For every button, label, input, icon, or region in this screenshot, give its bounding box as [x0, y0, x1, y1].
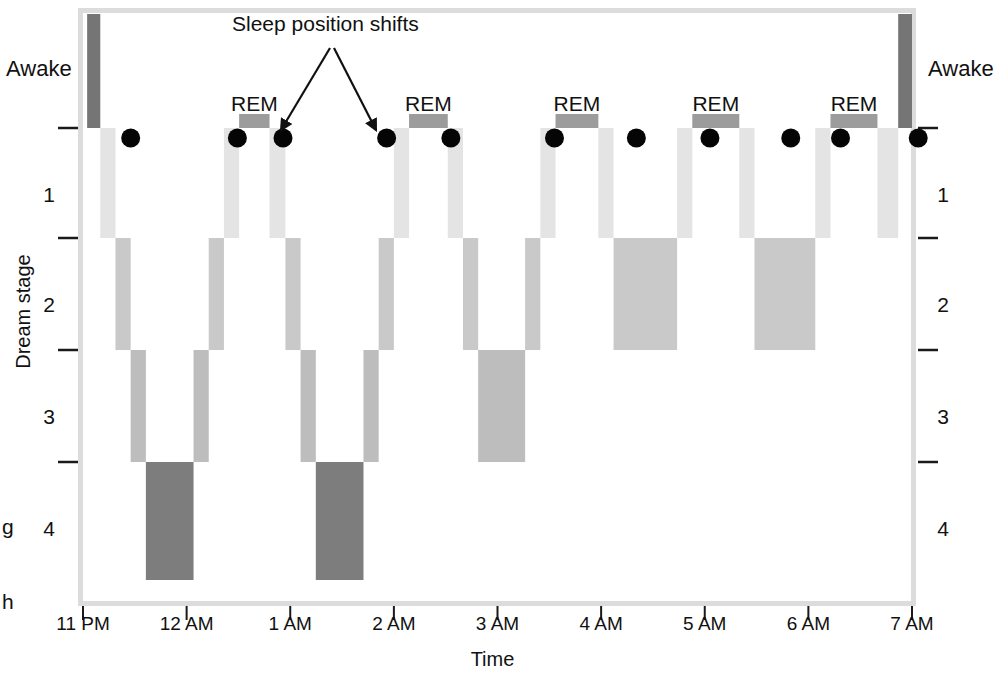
y-axis-right-tick-4: 4: [930, 517, 956, 541]
rem-label: REM: [542, 92, 612, 116]
x-axis-tick-label: 5 AM: [665, 613, 745, 635]
x-axis-tick-label: 4 AM: [561, 613, 641, 635]
y-axis-left-tick-2: 2: [36, 293, 62, 317]
margin-glyph-h: h: [2, 590, 14, 614]
rem-label: REM: [681, 92, 751, 116]
rem-label: REM: [219, 92, 289, 116]
x-axis-tick-label: 12 AM: [147, 613, 227, 635]
y-axis-left-tick-1: 1: [36, 183, 62, 207]
rem-label: REM: [393, 92, 463, 116]
y-axis-left-awake-label: Awake: [6, 56, 72, 82]
y-axis-right-tick-1: 1: [930, 183, 956, 207]
x-axis-tick-label: 7 AM: [872, 613, 952, 635]
x-axis-tick-label: 3 AM: [458, 613, 538, 635]
sleep-position-shifts-annotation: Sleep position shifts: [232, 12, 419, 36]
y-axis-right-awake-label: Awake: [928, 56, 994, 82]
y-axis-right-tick-3: 3: [930, 405, 956, 429]
x-axis-tick-label: 1 AM: [250, 613, 330, 635]
x-axis-tick-label: 11 PM: [43, 613, 123, 635]
x-axis-tick-label: 6 AM: [768, 613, 848, 635]
plot-area-frame: [78, 8, 916, 606]
y-axis-left-tick-4: 4: [36, 517, 62, 541]
y-axis-left-tick-3: 3: [36, 405, 62, 429]
y-axis-right-tick-2: 2: [930, 293, 956, 317]
rem-label: REM: [819, 92, 889, 116]
x-axis-title: Time: [0, 648, 985, 671]
y-axis-title: Dream stage: [12, 242, 35, 382]
margin-glyph-g: g: [2, 515, 14, 539]
x-axis-tick-label: 2 AM: [354, 613, 434, 635]
